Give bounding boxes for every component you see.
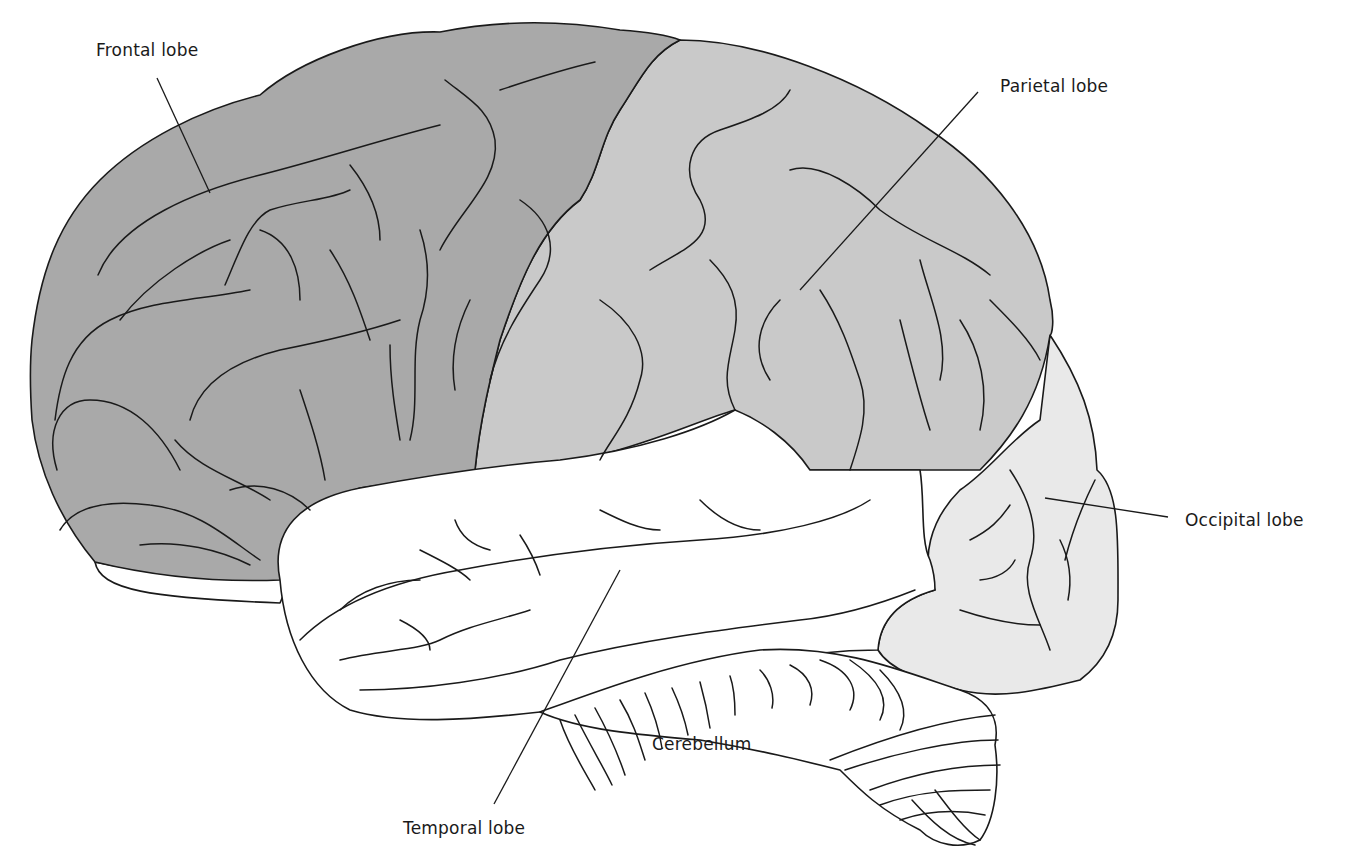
cerebellum-label: Cerebellum	[652, 734, 751, 754]
frontal-lobe-label: Frontal lobe	[96, 40, 198, 60]
occipital-lobe-label: Occipital lobe	[1185, 510, 1304, 530]
parietal-lobe-label: Parietal lobe	[1000, 76, 1108, 96]
temporal-lobe-label: Temporal lobe	[403, 818, 525, 838]
